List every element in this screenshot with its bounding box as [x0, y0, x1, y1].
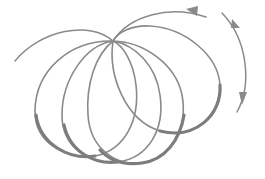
loop-4: [112, 26, 220, 133]
diagram-canvas: [0, 0, 265, 179]
arrow-left-icon: [186, 6, 198, 16]
loop-1: [35, 41, 137, 157]
loop-3: [88, 41, 184, 163]
arrow-down-icon: [239, 92, 247, 105]
precession-diagram: [0, 0, 265, 179]
arrow-up-icon: [231, 19, 240, 28]
loop-4-thick-right: [160, 85, 220, 133]
